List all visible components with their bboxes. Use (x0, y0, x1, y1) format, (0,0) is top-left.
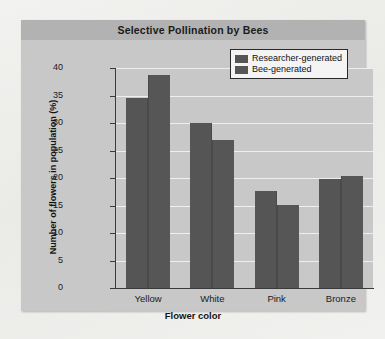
chart-title-band: Selective Pollination by Bees (21, 20, 365, 40)
legend-item: Researcher-generated (235, 53, 342, 64)
bar (190, 123, 212, 288)
y-tick-label: 20 (33, 173, 63, 182)
y-tick-mark (110, 123, 115, 124)
y-tick-mark (110, 96, 115, 97)
y-tick-mark (110, 178, 115, 179)
y-tick-label: 25 (33, 146, 63, 155)
bar (212, 140, 234, 289)
bar (255, 191, 277, 288)
y-tick-label: 15 (33, 201, 63, 210)
y-tick-mark (110, 233, 115, 234)
page-background: Selective Pollination by Bees Number of … (0, 0, 385, 339)
x-tick-label: Bronze (301, 293, 381, 304)
y-tick-mark (110, 261, 115, 262)
chart-panel: Selective Pollination by Bees Number of … (21, 20, 365, 311)
x-axis-title: Flower color (21, 310, 365, 321)
y-tick-label: 0 (33, 283, 63, 292)
legend-label: Bee-generated (252, 65, 312, 74)
y-tick-label: 10 (33, 228, 63, 237)
legend-swatch-icon (235, 66, 248, 74)
bar (319, 179, 341, 288)
y-tick-label: 5 (33, 256, 63, 265)
bar (148, 75, 170, 288)
bar (126, 98, 148, 288)
legend-swatch-icon (235, 55, 248, 63)
y-tick-label: 30 (33, 118, 63, 127)
chart-legend: Researcher-generatedBee-generated (230, 49, 348, 79)
bar (341, 176, 363, 288)
y-tick-label: 35 (33, 91, 63, 100)
y-axis-line (115, 68, 116, 289)
bar (277, 205, 299, 288)
y-tick-mark (110, 288, 115, 289)
y-tick-mark (110, 151, 115, 152)
y-tick-mark (110, 68, 115, 69)
legend-label: Researcher-generated (252, 54, 342, 63)
legend-item: Bee-generated (235, 64, 342, 75)
chart-title: Selective Pollination by Bees (117, 24, 268, 36)
y-tick-mark (110, 206, 115, 207)
y-tick-label: 40 (33, 63, 63, 72)
plot-area (116, 68, 373, 288)
x-axis-line (115, 288, 374, 289)
